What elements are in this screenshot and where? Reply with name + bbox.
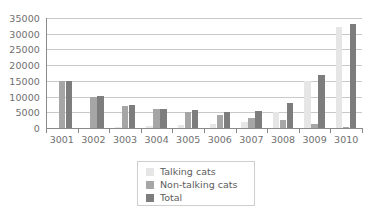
bar: [311, 124, 317, 128]
bar-group: [83, 18, 103, 128]
x-axis-tick-mark: [109, 129, 110, 133]
bar: [153, 109, 159, 128]
x-axis-tick-label: 3004: [145, 134, 169, 145]
legend-item: Talking cats: [146, 166, 254, 178]
y-axis-tick-label: 35000: [9, 13, 40, 24]
y-axis-tick-label: 20000: [9, 60, 40, 71]
x-axis-tick-mark: [267, 129, 268, 133]
x-axis-tick-mark: [362, 129, 363, 133]
legend-label: Total: [160, 193, 182, 203]
legend-swatch-icon: [146, 181, 154, 189]
bar: [343, 127, 349, 128]
bar-group: [52, 18, 72, 128]
bar: [287, 103, 293, 128]
bar: [122, 106, 128, 128]
x-axis-tick-label: 3003: [113, 134, 137, 145]
x-axis-tick-mark: [236, 129, 237, 133]
bar: [146, 126, 152, 128]
x-axis-tick-mark: [141, 129, 142, 133]
bar: [160, 109, 166, 128]
bar: [178, 125, 184, 128]
y-axis-tick-label: 30000: [9, 28, 40, 39]
y-axis-tick-label: 25000: [9, 44, 40, 55]
y-axis-tick-label: 15000: [9, 75, 40, 86]
x-axis-tick-label: 3008: [271, 134, 295, 145]
x-axis-tick-mark: [172, 129, 173, 133]
bar-group: [241, 18, 261, 128]
legend: Talking catsNon-talking catsTotal: [137, 161, 255, 206]
x-axis-tick-mark: [299, 129, 300, 133]
y-axis-tick-label: 10000: [9, 91, 40, 102]
bar: [115, 127, 121, 128]
bar: [350, 24, 356, 128]
y-axis-tick-label: 0: [34, 123, 40, 134]
legend-swatch-icon: [146, 168, 154, 176]
y-axis-tick-label: 5000: [15, 107, 40, 118]
x-axis-tick-mark: [204, 129, 205, 133]
bar-group: [273, 18, 293, 128]
bar-group: [210, 18, 230, 128]
bar: [224, 112, 230, 128]
bar: [217, 115, 223, 128]
plot-area: 05000100001500020000250003000035000 3001…: [0, 0, 372, 155]
bar: [66, 81, 72, 128]
bar: [97, 96, 103, 128]
bar: [185, 112, 191, 128]
x-axis-tick-label: 3007: [239, 134, 263, 145]
legend-swatch-icon: [146, 194, 154, 202]
bar: [304, 81, 310, 128]
bar-group: [178, 18, 198, 128]
x-axis-tick-label: 3006: [208, 134, 232, 145]
x-axis-tick-mark: [330, 129, 331, 133]
bar-group: [115, 18, 135, 128]
bar: [192, 110, 198, 128]
x-axis-tick-mark: [46, 129, 47, 133]
bar: [210, 124, 216, 128]
x-axis-tick-mark: [78, 129, 79, 133]
legend-item: Non-talking cats: [146, 179, 254, 191]
bars-layer: [46, 18, 362, 128]
bar: [336, 27, 342, 128]
bar: [280, 120, 286, 128]
bar-group: [336, 18, 356, 128]
bar: [318, 75, 324, 128]
bar: [90, 97, 96, 128]
x-axis-tick-label: 3005: [176, 134, 200, 145]
x-axis-tick-label: 3009: [303, 134, 327, 145]
x-axis-tick-label: 3001: [50, 134, 74, 145]
x-axis-tick-label: 3010: [334, 134, 358, 145]
bar-group: [304, 18, 324, 128]
bar: [248, 118, 254, 128]
legend-label: Non-talking cats: [160, 180, 237, 190]
legend-label: Talking cats: [160, 167, 216, 177]
y-axis-tick-labels: 05000100001500020000250003000035000: [0, 0, 44, 155]
legend-item: Total: [146, 192, 254, 204]
bar: [59, 81, 65, 128]
bar: [241, 122, 247, 128]
bar: [129, 105, 135, 128]
bar: [255, 111, 261, 128]
x-axis-tick-labels: 3001300230033004300530063007300830093010: [46, 134, 362, 152]
x-axis-tick-label: 3002: [81, 134, 105, 145]
bar-chart: 05000100001500020000250003000035000 3001…: [0, 0, 372, 217]
bar: [273, 112, 279, 128]
bar-group: [146, 18, 166, 128]
